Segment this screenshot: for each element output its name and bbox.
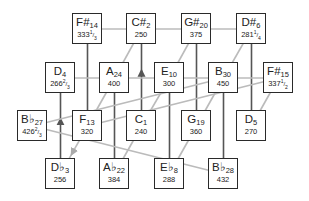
note-box-G19: G19360 — [181, 110, 211, 141]
note-name: B30 — [209, 65, 237, 78]
frequency-value: 432 — [217, 175, 230, 184]
frequency-value: 333 — [77, 30, 90, 39]
note-frequency: 300 — [155, 79, 183, 89]
frequency-value: 240 — [135, 127, 148, 136]
note-index: 5 — [253, 118, 257, 127]
note-name: B♭27 — [18, 113, 46, 126]
note-letter: A — [106, 65, 114, 77]
note-index: 19 — [196, 118, 204, 127]
note-frequency: 240 — [127, 127, 155, 137]
note-letter: B♭ — [212, 161, 226, 173]
note-name: A24 — [100, 65, 128, 78]
note-index: 1 — [143, 118, 147, 127]
note-letter: D — [245, 113, 253, 125]
note-frequency: 256 — [46, 175, 74, 185]
note-frequency: 375 — [182, 30, 210, 40]
note-letter: B♭ — [21, 113, 35, 125]
note-name: D5 — [237, 113, 265, 126]
note-box-D5: D5270 — [236, 110, 266, 141]
note-box-E10: E10300 — [154, 62, 184, 93]
note-box-C1: C1240 — [126, 110, 156, 141]
frequency-value: 266 — [50, 79, 63, 88]
frequency-value: 426 — [22, 127, 35, 136]
note-name: F#14 — [73, 16, 101, 29]
note-name: D4 — [46, 65, 74, 78]
note-frequency: 450 — [209, 79, 237, 89]
note-index: 13 — [86, 118, 94, 127]
note-name: G#20 — [182, 16, 210, 29]
note-name: F#15 — [264, 65, 292, 78]
note-frequency: 3331/3 — [73, 30, 101, 40]
note-letter: D — [54, 65, 62, 77]
note-box-Ds6: D#62811/4 — [236, 13, 266, 44]
note-letter: A♭ — [103, 161, 117, 173]
note-index: 8 — [174, 166, 178, 175]
note-letter: F# — [76, 16, 89, 28]
note-index: 30 — [223, 70, 231, 79]
note-box-Ab22: A♭22384 — [99, 158, 129, 189]
note-letter: E — [161, 65, 169, 77]
frequency-value: 281 — [241, 30, 254, 39]
frequency-value: 400 — [108, 79, 121, 88]
frequency-value: 256 — [54, 175, 67, 184]
note-index: 6 — [256, 21, 260, 30]
note-box-Cs2: C#2250 — [126, 13, 156, 44]
note-name: C#2 — [127, 16, 155, 29]
note-frequency: 288 — [155, 175, 183, 185]
note-name: A♭22 — [100, 161, 128, 174]
frequency-value: 288 — [163, 175, 176, 184]
note-frequency: 3371/2 — [264, 79, 292, 89]
note-name: G19 — [182, 113, 210, 126]
note-index: 10 — [169, 70, 177, 79]
note-letter: D♭ — [51, 161, 65, 173]
frequency-value: 300 — [163, 79, 176, 88]
note-box-F13: F13320 — [72, 110, 102, 141]
note-letter: B — [215, 65, 223, 77]
note-index: 20 — [200, 21, 208, 30]
note-name: E♭8 — [155, 161, 183, 174]
note-name: D#6 — [237, 16, 265, 29]
note-frequency: 400 — [100, 79, 128, 89]
note-frequency: 2662/3 — [46, 79, 74, 89]
note-name: D♭3 — [46, 161, 74, 174]
frequency-value: 360 — [190, 127, 203, 136]
note-name: C1 — [127, 113, 155, 126]
note-box-Gs20: G#20375 — [181, 13, 211, 44]
note-box-B30: B30450 — [208, 62, 238, 93]
note-box-Bb28: B♭28432 — [208, 158, 238, 189]
note-index: 22 — [117, 166, 125, 175]
fraction-denominator: 4 — [258, 35, 261, 41]
note-index: 28 — [226, 166, 234, 175]
note-frequency: 360 — [182, 127, 210, 137]
note-index: 3 — [65, 166, 69, 175]
frequency-value: 450 — [217, 79, 230, 88]
note-frequency: 4262/3 — [18, 127, 46, 137]
note-frequency: 250 — [127, 30, 155, 40]
note-letter: C — [135, 113, 143, 125]
note-box-Fs14: F#143331/3 — [72, 13, 102, 44]
frequency-value: 250 — [135, 30, 148, 39]
frequency-value: 320 — [81, 127, 94, 136]
note-frequency: 384 — [100, 175, 128, 185]
note-box-A24: A24400 — [99, 62, 129, 93]
note-letter: G# — [184, 16, 199, 28]
fraction-denominator: 2 — [285, 84, 288, 90]
note-name: E10 — [155, 65, 183, 78]
note-box-Bb27: B♭274262/3 — [17, 110, 47, 141]
note-frequency: 2811/4 — [237, 30, 265, 40]
note-name: F13 — [73, 113, 101, 126]
note-letter: G — [187, 113, 196, 125]
note-index: 24 — [114, 70, 122, 79]
frequency-value: 270 — [245, 127, 258, 136]
note-letter: D# — [242, 16, 257, 28]
frequency-value: 337 — [268, 79, 281, 88]
note-box-Db3: D♭3256 — [45, 158, 75, 189]
note-letter: C# — [132, 16, 147, 28]
fraction-denominator: 3 — [94, 35, 97, 41]
note-frequency: 432 — [209, 175, 237, 185]
note-letter: E♭ — [160, 161, 174, 173]
note-box-Eb8: E♭8288 — [154, 158, 184, 189]
tone-lattice-diagram: F#143331/3C#2250G#20375D#62811/4D42662/3… — [0, 0, 309, 201]
note-box-Fs15: F#153371/2 — [263, 62, 293, 93]
note-letter: F# — [267, 65, 280, 77]
